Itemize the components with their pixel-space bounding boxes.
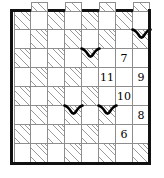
grid-cell-r7-c5[interactable] — [99, 144, 116, 163]
grid-cell-r1-c0[interactable] — [14, 30, 31, 49]
border-top-segment-3 — [116, 9, 133, 12]
grid-cell-r1-c1[interactable] — [31, 30, 48, 49]
grid-cell-r7-c1[interactable] — [31, 144, 48, 163]
grid-cell-r2-c4[interactable] — [82, 49, 99, 68]
clue-number: 6 — [120, 129, 129, 140]
grid-cell-r5-c5[interactable] — [99, 106, 116, 125]
grid-cell-r5-c1[interactable] — [31, 106, 48, 125]
grid-cell-r3-c3[interactable] — [65, 68, 82, 87]
grid-cell-r4-c5[interactable] — [99, 87, 116, 106]
border-right — [148, 9, 151, 165]
grid-cell-r1-c2[interactable] — [48, 30, 65, 49]
grid-cell-r2-c2[interactable] — [48, 49, 65, 68]
border-top-segment-2 — [82, 9, 99, 12]
clue-number: 10 — [116, 91, 132, 102]
grid-cell-r7-c4[interactable] — [82, 144, 99, 163]
grid-cell-r0-c4[interactable] — [82, 11, 99, 30]
border-left — [10, 9, 13, 165]
grid-cell-r7-c6[interactable] — [116, 144, 133, 163]
grid-cell-r5-c3[interactable] — [65, 106, 82, 125]
grid-cell-r1-c4[interactable] — [82, 30, 99, 49]
grid-cell-r0-c3[interactable] — [65, 11, 82, 30]
top-hatch-tab-3 — [65, 2, 82, 11]
grid-cell-r6-c1[interactable] — [31, 125, 48, 144]
border-top-segment-0 — [10, 9, 31, 12]
grid-cell-r4-c3[interactable] — [65, 87, 82, 106]
border-top-segment-4 — [150, 9, 151, 12]
grid-cell-r2-c0[interactable] — [14, 49, 31, 68]
grid-cell-r1-c6[interactable] — [116, 30, 133, 49]
grid-cell-r4-c1[interactable] — [31, 87, 48, 106]
grid-cell-r4-c4[interactable] — [82, 87, 99, 106]
grid-cell-r0-c6[interactable] — [116, 11, 133, 30]
clue-number: 7 — [120, 53, 129, 64]
puzzle-grid[interactable]: 71191086 — [14, 11, 150, 163]
border-bottom — [10, 162, 151, 165]
grid-cell-r5-c4[interactable] — [82, 106, 99, 125]
grid-cell-r3-c5[interactable]: 11 — [99, 68, 116, 87]
grid-cell-r1-c3[interactable] — [65, 30, 82, 49]
grid-cell-r2-c6[interactable]: 7 — [116, 49, 133, 68]
grid-cell-r0-c0[interactable] — [14, 11, 31, 30]
grid-cell-r5-c2[interactable] — [48, 106, 65, 125]
grid-cell-r5-c0[interactable] — [14, 106, 31, 125]
grid-cell-r6-c0[interactable] — [14, 125, 31, 144]
grid-cell-r3-c6[interactable] — [116, 68, 133, 87]
grid-cell-r4-c0[interactable] — [14, 87, 31, 106]
border-top-segment-1 — [48, 9, 65, 12]
grid-cell-r7-c2[interactable] — [48, 144, 65, 163]
grid-cell-r1-c5[interactable] — [99, 30, 116, 49]
puzzle-figure: 71191086 — [0, 0, 164, 178]
grid-cell-r6-c5[interactable] — [99, 125, 116, 144]
clue-number: 8 — [137, 110, 146, 121]
grid-cell-r6-c3[interactable] — [65, 125, 82, 144]
clue-number: 11 — [99, 72, 115, 83]
grid-cell-r3-c4[interactable] — [82, 68, 99, 87]
grid-cell-r7-c0[interactable] — [14, 144, 31, 163]
grid-cell-r0-c5[interactable] — [99, 11, 116, 30]
top-hatch-tab-5 — [99, 2, 116, 11]
grid-cell-r7-c3[interactable] — [65, 144, 82, 163]
grid-cell-r0-c2[interactable] — [48, 11, 65, 30]
grid-cell-r2-c1[interactable] — [31, 49, 48, 68]
grid-cell-r4-c2[interactable] — [48, 87, 65, 106]
grid-cell-r4-c6[interactable]: 10 — [116, 87, 133, 106]
grid-cell-r6-c6[interactable]: 6 — [116, 125, 133, 144]
grid-cell-r3-c0[interactable] — [14, 68, 31, 87]
grid-cell-r6-c4[interactable] — [82, 125, 99, 144]
top-hatch-tab-1 — [31, 2, 48, 11]
grid-cell-r0-c1[interactable] — [31, 11, 48, 30]
grid-cell-r2-c3[interactable] — [65, 49, 82, 68]
grid-cell-r2-c5[interactable] — [99, 49, 116, 68]
grid-cell-r3-c1[interactable] — [31, 68, 48, 87]
grid-cell-r6-c2[interactable] — [48, 125, 65, 144]
grid-cell-r5-c6[interactable] — [116, 106, 133, 125]
grid-cell-r3-c2[interactable] — [48, 68, 65, 87]
clue-number: 9 — [137, 72, 146, 83]
